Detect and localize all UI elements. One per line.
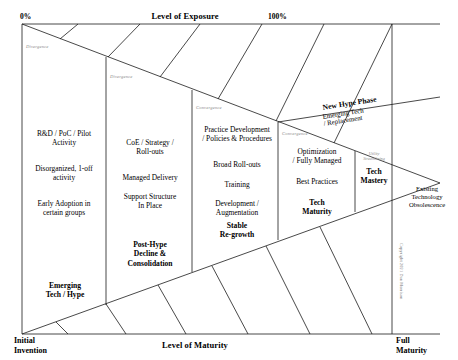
column-4-line-1: Optimization / Fully Managed bbox=[280, 147, 354, 165]
upper-tick-6 bbox=[334, 24, 392, 143]
column-2-line-1: CoE / Strategy / Roll-outs bbox=[110, 138, 190, 156]
flow-label-divergence-2: Divergence bbox=[110, 74, 133, 80]
copyright-notice: Copyright 2021 Dan Morrison bbox=[399, 243, 404, 299]
column-3-line-3: Training bbox=[194, 180, 280, 189]
lower-tick-1 bbox=[56, 322, 68, 334]
column-3-summary: Stable Re-growth bbox=[194, 221, 280, 240]
lower-tick-5 bbox=[266, 246, 310, 334]
initial-invention-label: Initial Invention bbox=[14, 336, 74, 356]
lower-tick-3 bbox=[158, 285, 186, 334]
column-2-summary: Post-Hype Decline & Consolidation bbox=[110, 240, 190, 268]
lower-tick-2 bbox=[106, 304, 126, 334]
existing-technology-obsolescence-label: Existing Technology Obsolescence bbox=[398, 185, 456, 210]
exposure-axis-title: Level of Exposure bbox=[125, 11, 245, 21]
lower-tick-4 bbox=[212, 266, 248, 334]
column-3-line-4: Development / Augmentation bbox=[194, 199, 280, 217]
maturity-axis-title: Level of Maturity bbox=[135, 340, 255, 350]
exposure-max-label: 100% bbox=[268, 12, 287, 21]
column-4-line-2: Best Practices bbox=[280, 177, 354, 186]
column-2-line-3: Support Structure In Place bbox=[110, 192, 190, 210]
lower-tick-6 bbox=[320, 227, 372, 334]
exposure-min-label: 0% bbox=[20, 12, 31, 21]
full-maturity-label: Full Maturity bbox=[396, 336, 452, 356]
column-5-faint-label: Utility Streamlining bbox=[355, 152, 393, 162]
column-3-line-2: Broad Roll-outs bbox=[194, 160, 280, 169]
column-3-line-1: Practice Development / Policies & Proced… bbox=[194, 125, 280, 143]
column-1-line-2: Disorganized, 1-off activity bbox=[24, 164, 104, 182]
flow-label-divergence-1: Divergence bbox=[26, 44, 49, 50]
column-5-summary: Tech Mastery bbox=[355, 167, 393, 186]
column-1-summary: Emerging Tech / Hype bbox=[26, 281, 104, 300]
technology-lifecycle-diagram: 0% Level of Exposure 100% Initial Invent… bbox=[0, 0, 458, 360]
upper-tick-1 bbox=[60, 24, 78, 39]
column-4-summary: Tech Maturity bbox=[280, 198, 354, 217]
upper-tick-2 bbox=[108, 24, 140, 57]
upper-tick-5 bbox=[276, 24, 324, 121]
column-1-line-3: Early Adoption in certain groups bbox=[24, 199, 104, 217]
column-1-line-1: R&D / PoC / Pilot Activity bbox=[24, 129, 104, 147]
upper-tick-3 bbox=[160, 24, 200, 77]
flow-label-convergence-1: Convergence bbox=[196, 105, 222, 111]
flow-label-convergence-2: Convergence bbox=[282, 131, 308, 137]
column-2-line-2: Managed Delivery bbox=[110, 173, 190, 182]
upper-tick-4 bbox=[218, 24, 262, 99]
